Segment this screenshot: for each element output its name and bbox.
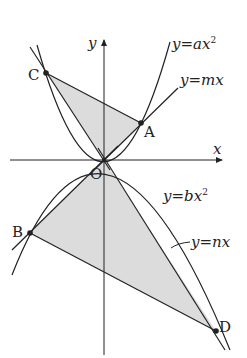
label-line-m: y=mx (180, 73, 224, 88)
x-axis-label: x (213, 142, 221, 157)
label-line-n: y=nx (191, 235, 230, 250)
triangle-OBD (30, 160, 216, 331)
point-C (43, 70, 49, 76)
point-O (102, 158, 106, 162)
point-A (138, 120, 144, 126)
diagram-canvas (0, 0, 247, 358)
diagram: y x O C A B D y=ax2 y=mx y=bx2 y=nx (0, 0, 247, 358)
origin-label: O (90, 167, 102, 182)
label-parabola-b: y=bx2 (163, 188, 208, 204)
label-parabola-a: y=ax2 (172, 36, 216, 52)
label-B: B (12, 225, 23, 240)
label-C: C (28, 68, 39, 83)
point-D (213, 328, 219, 334)
label-A: A (144, 125, 155, 140)
label-D: D (219, 320, 231, 335)
point-B (27, 230, 33, 236)
y-axis-label: y (88, 36, 96, 51)
